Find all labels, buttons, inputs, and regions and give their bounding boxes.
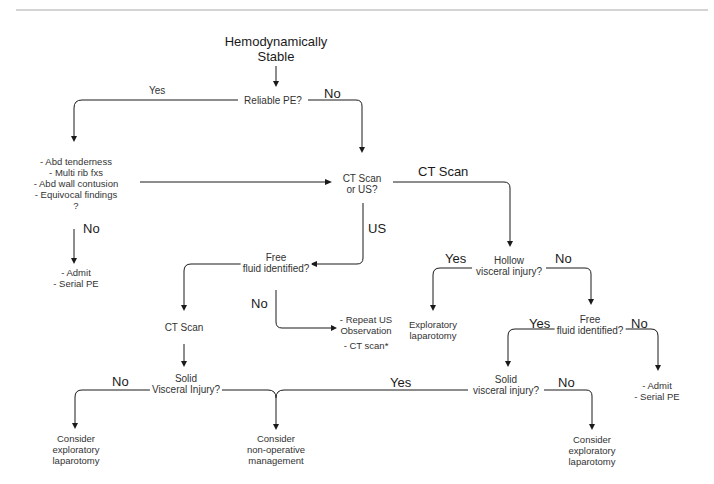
node-ct-scan-or-us: CT Scan or US? [341, 173, 384, 195]
edge-label-free-fluid-no: No [251, 296, 268, 311]
node-reliable-pe: Reliable PE? [242, 95, 304, 106]
edge-label-hollow-yes: Yes [445, 251, 466, 266]
node-hollow-visceral-injury: Hollow visceral injury? [474, 255, 544, 277]
edge-label-free-fluid-ct-no: No [631, 316, 648, 331]
node-solid-visceral-injury-left: Solid Visceral Injury? [150, 373, 222, 395]
node-admit-serial-pe-left: - Admit - Serial PE [51, 267, 100, 289]
edge-label-hollow-no: No [555, 251, 572, 266]
edge-label-solid-right-no: No [558, 375, 575, 390]
edge-label-solid-yes: Yes [390, 375, 411, 390]
node-consider-exploratory-left: Consider exploratory laparotomy [51, 433, 102, 466]
node-hemodynamically-stable: Hemodynamically Stable [223, 34, 330, 64]
node-solid-visceral-injury-right: Solid visceral injury? [471, 374, 541, 396]
edge-label-solid-left-no: No [112, 374, 129, 389]
edge-label-reliable-no: No [324, 86, 341, 101]
node-findings: - Abd tenderness - Multi rib fxs - Abd w… [32, 156, 121, 211]
node-consider-non-operative: Consider non-operative management [245, 433, 307, 466]
connector-lines [0, 0, 714, 484]
node-admit-serial-pe-right: - Admit - Serial PE [632, 380, 681, 402]
node-exploratory-laparotomy: Exploratory laparotomy [407, 319, 459, 341]
edge-label-free-fluid-ct-yes: Yes [529, 316, 550, 331]
node-repeat-us: - Repeat US Observation - CT scan* [338, 314, 394, 351]
node-consider-exploratory-right: Consider exploratory laparotomy [567, 434, 618, 467]
edge-label-us: US [368, 221, 386, 236]
edge-label-reliable-yes: Yes [149, 85, 165, 96]
node-ct-scan-mid: CT Scan [163, 322, 206, 333]
node-free-fluid-ct: Free fluid identified? [555, 314, 626, 336]
node-free-fluid-us: Free fluid identified? [241, 252, 312, 274]
edge-label-ct-scan: CT Scan [418, 164, 468, 179]
edge-label-findings-no: No [83, 221, 100, 236]
